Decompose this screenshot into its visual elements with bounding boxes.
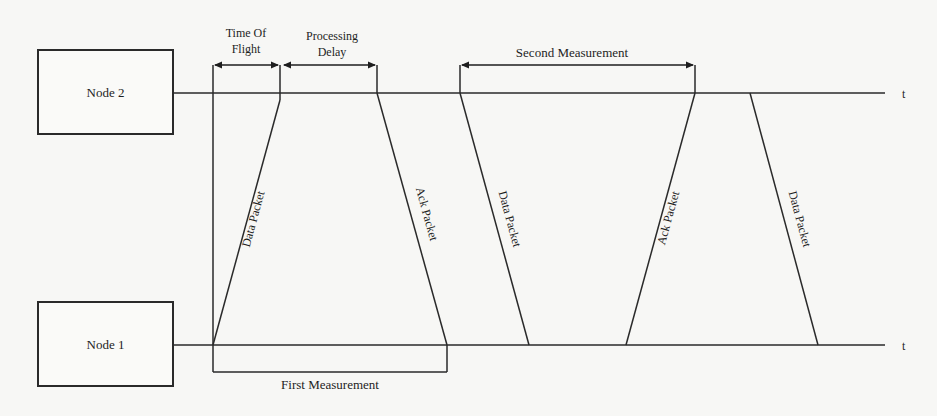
packet-data-1: Data Packet [213,100,280,345]
node-2: Node 2 [38,50,173,134]
time-of-flight-interval: Time Of Flight [215,26,280,100]
time-of-flight-label-line1: Time Of [226,26,267,40]
ack-packet-2-label: Ack Packet [654,189,682,246]
data-packet-2-line [460,93,529,345]
node-1-time-axis-label: t [902,339,906,353]
packet-data-3: Data Packet [750,93,818,345]
timing-diagram: Node 2 t Node 1 t First Measurement Time… [0,0,937,416]
node-2-label: Node 2 [87,85,125,100]
first-measurement-label: First Measurement [281,377,379,392]
second-measurement-interval: Second Measurement [460,45,695,93]
packet-data-2: Data Packet [460,93,529,345]
processing-delay-label-line2: Delay [318,45,347,59]
node-1: Node 1 [38,302,173,386]
data-packet-1-label: Data Packet [239,189,268,249]
packet-ack-2: Ack Packet [626,93,695,345]
time-of-flight-label-line2: Flight [232,42,261,56]
second-measurement-label: Second Measurement [516,45,629,60]
processing-delay-label-line1: Processing [306,29,358,43]
node-1-label: Node 1 [87,337,125,352]
processing-delay-interval: Processing Delay [284,29,377,93]
packet-ack-1: Ack Packet [377,93,447,345]
node-2-time-axis-label: t [902,87,906,101]
